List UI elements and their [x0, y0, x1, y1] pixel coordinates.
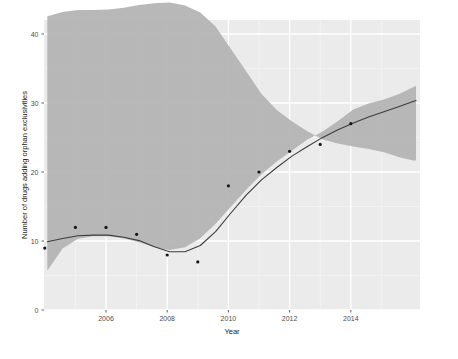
data-point: [349, 122, 352, 125]
data-point: [135, 233, 138, 236]
y-tick-label: 40: [31, 31, 39, 38]
x-tick-label: 2006: [98, 315, 114, 322]
data-point: [43, 247, 46, 250]
data-point: [288, 150, 291, 153]
y-tick-label: 10: [31, 238, 39, 245]
x-axis-title: Year: [224, 327, 240, 336]
x-tick-label: 2010: [221, 315, 237, 322]
x-tick-label: 2012: [282, 315, 298, 322]
y-tick-label: 0: [35, 307, 39, 314]
scatter-plot-with-loess-smooth: 0 10 20 30 40 2006 2008 2010 2012 2014 Y…: [0, 0, 458, 359]
x-tick-label: 2008: [159, 315, 175, 322]
data-point: [227, 184, 230, 187]
data-point: [104, 226, 107, 229]
x-tick-label: 2014: [343, 315, 359, 322]
chart-figure: 0 10 20 30 40 2006 2008 2010 2012 2014 Y…: [0, 0, 458, 359]
y-axis-title: Number of drugs adding orphan exclusivit…: [20, 91, 29, 239]
data-point: [196, 260, 199, 263]
y-tick-label: 20: [31, 169, 39, 176]
data-point: [319, 143, 322, 146]
y-tick-label: 30: [31, 100, 39, 107]
data-point: [166, 253, 169, 256]
data-point: [257, 170, 260, 173]
data-point: [74, 226, 77, 229]
